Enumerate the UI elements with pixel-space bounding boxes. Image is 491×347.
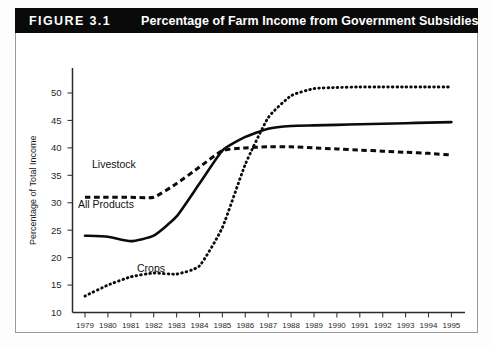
x-tick-label: 1979	[76, 321, 94, 330]
y-tick-label: 25	[51, 225, 62, 236]
y-tick-label: 40	[51, 142, 62, 153]
x-tick-label: 1980	[99, 321, 117, 330]
x-tick-label: 1985	[214, 321, 232, 330]
x-tick-label: 1983	[168, 321, 186, 330]
series-line-all-products	[85, 122, 451, 241]
y-tick-label: 35	[51, 170, 62, 181]
x-tick-label: 1991	[351, 321, 369, 330]
y-tick-label: 15	[51, 279, 62, 290]
y-tick-label: 45	[51, 115, 62, 126]
series-label-livestock: Livestock	[92, 158, 137, 170]
x-tick-label: 1992	[374, 321, 392, 330]
y-tick-label: 10	[51, 307, 62, 318]
series-label-all-products: All Products	[78, 198, 134, 210]
x-tick-label: 1986	[236, 321, 254, 330]
figure-container: FIGURE 3.1 Percentage of Farm Income fro…	[0, 0, 491, 347]
x-axis-tick-labels: 1979198019811982198319841985198619871988…	[76, 321, 461, 330]
x-tick-label: 1989	[305, 321, 323, 330]
x-tick-label: 1995	[443, 321, 461, 330]
x-tick-label: 1988	[282, 321, 300, 330]
y-tick-label: 30	[51, 197, 62, 208]
x-tick-label: 1981	[122, 321, 140, 330]
y-axis-title: Percentage of Total Income	[28, 136, 38, 245]
x-tick-label: 1984	[191, 321, 209, 330]
x-tick-label: 1993	[397, 321, 415, 330]
y-tick-label: 50	[51, 87, 62, 98]
chart-plot-area: 504540353025201510 197919801981198219831…	[0, 0, 491, 347]
series-line-livestock	[85, 147, 451, 198]
x-tick-label: 1987	[259, 321, 277, 330]
y-tick-label: 20	[51, 252, 62, 263]
x-tick-label: 1994	[420, 321, 438, 330]
y-axis-tick-labels: 504540353025201510	[51, 87, 62, 318]
chart-svg: 504540353025201510 197919801981198219831…	[0, 0, 491, 347]
x-tick-label: 1982	[145, 321, 163, 330]
x-tick-label: 1990	[328, 321, 346, 330]
series-label-crops: Crops	[137, 262, 165, 274]
